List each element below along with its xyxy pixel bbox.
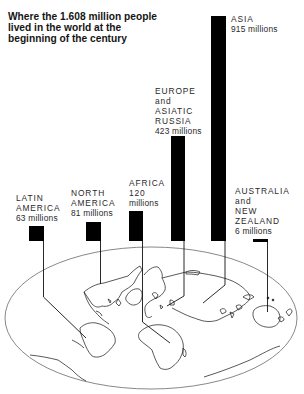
bar-africa [129, 211, 143, 241]
bars [29, 16, 268, 242]
south-america-outline [80, 323, 115, 357]
label-asia: ASIA 915 millions [231, 14, 278, 34]
bar-latin-america [29, 226, 44, 241]
label-line: and [235, 196, 290, 206]
label-latin-america: LATIN AMERICA 63 millions [16, 193, 60, 223]
greenland-outline [126, 289, 142, 305]
label-line: AUSTRALIA [235, 186, 290, 196]
africa-outline [139, 325, 184, 370]
world-map-coastlines [30, 266, 292, 381]
label-line: 120 [129, 188, 165, 198]
label-line: RUSSIA [155, 116, 202, 126]
australia-outline [253, 306, 280, 328]
bar-north-america [86, 222, 101, 241]
value-label: 915 millions [231, 24, 278, 34]
label-line: ASIA [231, 14, 278, 24]
label-line: AMERICA [16, 203, 60, 213]
value-label: millions [129, 198, 165, 208]
label-line: ZEALAND [235, 216, 290, 226]
north-america-outline [84, 266, 142, 307]
label-line: LATIN [16, 193, 60, 203]
asia-outline [162, 272, 250, 322]
leader-asia [203, 241, 225, 303]
value-label: 423 millions [155, 126, 202, 136]
bar-australia [253, 239, 268, 242]
label-line: NEW [235, 206, 290, 216]
bar-asia [211, 16, 226, 241]
label-line: and [155, 96, 202, 106]
label-line: ASIATIC [155, 106, 202, 116]
label-line: EUROPE [155, 86, 202, 96]
value-label: 81 millions [71, 208, 115, 218]
value-label: 63 millions [16, 213, 60, 223]
label-europe: EUROPE and ASIATIC RUSSIA 423 millions [155, 86, 202, 136]
label-north-america: NORTH AMERICA 81 millions [71, 188, 115, 218]
antarctica-outline [30, 355, 86, 381]
label-line: AMERICA [71, 198, 115, 208]
label-line: NORTH [71, 188, 115, 198]
value-label: 6 millions [235, 226, 290, 236]
leader-africa [143, 241, 171, 343]
label-line: AFRICA [129, 178, 165, 188]
europe-outline [144, 267, 165, 318]
bar-europe [171, 136, 185, 241]
label-australia: AUSTRALIA and NEW ZEALAND 6 millions [235, 186, 290, 236]
label-africa: AFRICA 120 millions [129, 178, 165, 208]
